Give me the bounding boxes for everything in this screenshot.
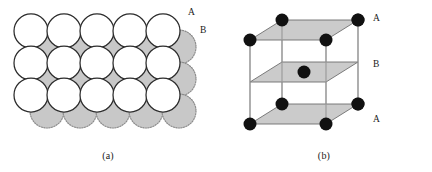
layer-a-circle — [80, 46, 114, 80]
panel-b-label-b-middle: B — [373, 60, 379, 70]
layer-a-circle — [146, 78, 180, 112]
layer-a-circle — [14, 78, 48, 112]
layer-a-circle — [146, 46, 180, 80]
figure-root: A B (a) A B A (b) — [0, 0, 432, 172]
panel-a-close-packed-layers: A B (a) — [0, 0, 216, 172]
layer-a-circle — [47, 78, 81, 112]
panel-b-caption: (b) — [216, 150, 432, 161]
panel-a-label-b: B — [200, 26, 206, 36]
plane-a-top — [250, 20, 358, 40]
layer-a-circles-group — [14, 14, 180, 112]
atom-corner — [320, 118, 333, 131]
panel-a-diagram — [0, 0, 216, 172]
panel-b-diagram — [216, 0, 432, 172]
atom-corner — [244, 118, 257, 131]
plane-a-bottom — [250, 104, 358, 124]
atom-corner — [320, 34, 333, 47]
layer-a-circle — [80, 78, 114, 112]
layer-a-circle — [14, 14, 48, 48]
atom-center-b — [298, 66, 311, 79]
layer-a-circle — [80, 14, 114, 48]
panel-b-label-a-bottom: A — [373, 115, 380, 125]
layer-a-circle — [113, 78, 147, 112]
atom-corner — [352, 98, 365, 111]
layer-a-circle — [14, 46, 48, 80]
atom-corner — [244, 34, 257, 47]
panel-a-caption: (a) — [0, 150, 216, 161]
layer-a-circle — [113, 14, 147, 48]
atom-corner — [276, 14, 289, 27]
layer-a-circle — [146, 14, 180, 48]
atom-corner — [352, 14, 365, 27]
atom-corner — [276, 98, 289, 111]
panel-a-label-a: A — [188, 8, 195, 18]
layer-a-circle — [113, 46, 147, 80]
layer-a-circle — [47, 46, 81, 80]
layer-a-circle — [47, 14, 81, 48]
panel-b-unit-cell: A B A (b) — [216, 0, 432, 172]
panel-b-label-a-top: A — [373, 14, 380, 24]
